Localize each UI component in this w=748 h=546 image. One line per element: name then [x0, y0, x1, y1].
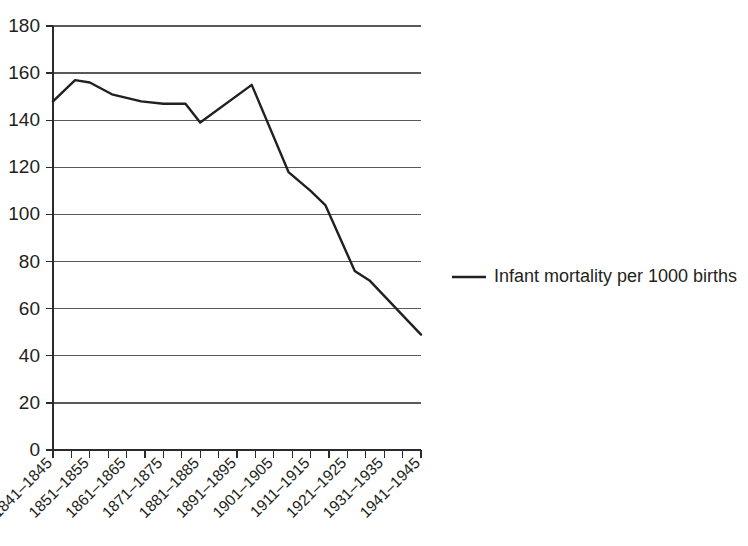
y-tick-label: 0 — [29, 439, 40, 460]
y-tick-label: 120 — [8, 156, 40, 177]
y-tick-label: 180 — [8, 15, 40, 36]
gridlines-group — [53, 26, 421, 403]
y-axis-tick-labels: 020406080100120140160180 — [8, 15, 53, 460]
y-tick-label: 20 — [19, 392, 40, 413]
x-axis-tick-marks — [53, 450, 421, 458]
y-tick-label: 160 — [8, 62, 40, 83]
chart-legend: Infant mortality per 1000 births — [452, 266, 737, 286]
line-chart: 020406080100120140160180 1841–18451851–1… — [0, 0, 748, 546]
series-line-infant-mortality — [53, 80, 421, 334]
y-tick-label: 40 — [19, 345, 40, 366]
legend-label: Infant mortality per 1000 births — [494, 266, 737, 286]
y-tick-label: 100 — [8, 203, 40, 224]
y-tick-label: 60 — [19, 298, 40, 319]
chart-container: 020406080100120140160180 1841–18451851–1… — [0, 0, 748, 546]
y-tick-label: 140 — [8, 109, 40, 130]
x-axis-tick-labels: 1841–18451851–18551861–18651871–18751881… — [0, 454, 423, 521]
y-tick-label: 80 — [19, 251, 40, 272]
